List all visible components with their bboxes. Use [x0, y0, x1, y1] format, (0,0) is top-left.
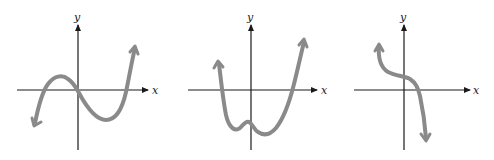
polynomial-curve: [35, 48, 135, 123]
x-axis-label: x: [473, 84, 480, 97]
y-axis-label: y: [73, 11, 81, 24]
graph-3: x y: [354, 11, 480, 150]
x-axis-label: x: [321, 84, 328, 97]
graph-1: x y: [17, 11, 159, 150]
y-axis-label: y: [246, 11, 254, 24]
y-axis-label: y: [399, 11, 407, 24]
polynomial-curve: [219, 42, 304, 134]
x-axis-label: x: [152, 84, 159, 97]
polynomial-curve: [379, 46, 426, 138]
polynomial-graphs-figure: x y x y x y: [0, 0, 494, 160]
graph-2: x y: [188, 11, 328, 150]
